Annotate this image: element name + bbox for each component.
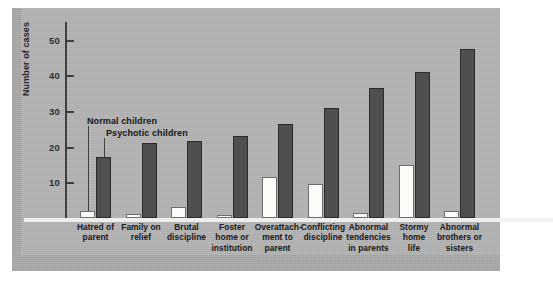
y-tick-label: 20 bbox=[49, 141, 60, 152]
bar-normal-children bbox=[308, 184, 323, 218]
y-tick-label: 50 bbox=[49, 34, 60, 45]
bar-group bbox=[353, 22, 384, 218]
bar-group bbox=[217, 22, 248, 218]
category-label: Stormyhomelife bbox=[391, 222, 437, 253]
legend-pointer-normal bbox=[88, 126, 89, 211]
category-label: Abnormalbrothers orsisters bbox=[437, 222, 483, 253]
y-axis-line bbox=[65, 22, 67, 218]
category-label-line: Family on bbox=[118, 222, 164, 232]
category-label-line: discipline bbox=[164, 232, 210, 242]
bar-normal-children bbox=[171, 207, 186, 218]
bar-chart-figure: Number of cases 1020304050 Normal childr… bbox=[12, 8, 500, 271]
category-label-line: Abnormal bbox=[437, 222, 483, 232]
y-tick-label: 40 bbox=[49, 70, 60, 81]
bar-normal-children bbox=[217, 215, 232, 218]
category-label-line: parent bbox=[255, 243, 301, 253]
bar-normal-children bbox=[444, 211, 459, 218]
category-label-line: in parents bbox=[346, 243, 392, 253]
bar-psychotic-children bbox=[142, 143, 157, 218]
legend-pointer-psychotic bbox=[104, 138, 105, 157]
figure-left-edge bbox=[12, 8, 21, 271]
bar-group bbox=[171, 22, 202, 218]
bar-psychotic-children bbox=[233, 136, 248, 218]
category-label-line: Overattach- bbox=[255, 222, 301, 232]
y-tick-mark bbox=[67, 75, 74, 77]
category-label-line: institution bbox=[209, 243, 255, 253]
legend-label-psychotic-children: Psychotic children bbox=[106, 128, 188, 138]
bar-psychotic-children bbox=[96, 157, 111, 218]
bar-psychotic-children bbox=[415, 72, 430, 218]
bar-psychotic-children bbox=[187, 141, 202, 218]
category-label-line: home bbox=[391, 232, 437, 242]
legend-label-normal-children: Normal children bbox=[87, 116, 157, 126]
category-label-line: life bbox=[391, 243, 437, 253]
bar-normal-children bbox=[126, 214, 141, 218]
category-label-line: Stormy bbox=[391, 222, 437, 232]
bar-group bbox=[399, 22, 430, 218]
category-label-line: relief bbox=[118, 232, 164, 242]
category-label: Hatred ofparent bbox=[73, 222, 119, 243]
bar-group bbox=[444, 22, 475, 218]
y-tick-label: 30 bbox=[49, 106, 60, 117]
category-label-line: sisters bbox=[437, 243, 483, 253]
bar-group bbox=[308, 22, 339, 218]
bar-normal-children bbox=[80, 211, 95, 218]
category-label: Overattach-ment toparent bbox=[255, 222, 301, 253]
y-tick-label: 10 bbox=[49, 177, 60, 188]
bar-group bbox=[262, 22, 293, 218]
category-label-line: Brutal bbox=[164, 222, 210, 232]
category-label-line: tendencies bbox=[346, 232, 392, 242]
category-label-line: Foster bbox=[209, 222, 255, 232]
category-label: Brutaldiscipline bbox=[164, 222, 210, 243]
category-label-line: brothers or bbox=[437, 232, 483, 242]
y-tick-mark bbox=[67, 40, 74, 42]
y-tick-mark bbox=[67, 147, 74, 149]
category-label-line: Abnormal bbox=[346, 222, 392, 232]
category-label: Family onrelief bbox=[118, 222, 164, 243]
y-tick-mark bbox=[67, 111, 74, 113]
category-label-line: parent bbox=[73, 232, 119, 242]
category-label-line: discipline bbox=[300, 232, 346, 242]
bar-psychotic-children bbox=[369, 88, 384, 218]
category-label: Conflictingdiscipline bbox=[300, 222, 346, 243]
y-tick-mark bbox=[67, 182, 74, 184]
bar-psychotic-children bbox=[460, 49, 475, 218]
figure-bottom-edge bbox=[12, 255, 500, 271]
category-label-line: Hatred of bbox=[73, 222, 119, 232]
category-label: Abnormaltendenciesin parents bbox=[346, 222, 392, 253]
bar-normal-children bbox=[353, 213, 368, 218]
category-label-line: Conflicting bbox=[300, 222, 346, 232]
y-axis-title: Number of cases bbox=[21, 22, 31, 96]
plot-area: Number of cases 1020304050 Normal childr… bbox=[65, 22, 490, 218]
bar-normal-children bbox=[262, 177, 277, 218]
category-label: Fosterhome orinstitution bbox=[209, 222, 255, 253]
category-label-line: ment to bbox=[255, 232, 301, 242]
bar-normal-children bbox=[399, 165, 414, 218]
category-label-line: home or bbox=[209, 232, 255, 242]
bar-psychotic-children bbox=[278, 124, 293, 218]
bar-psychotic-children bbox=[324, 108, 339, 218]
